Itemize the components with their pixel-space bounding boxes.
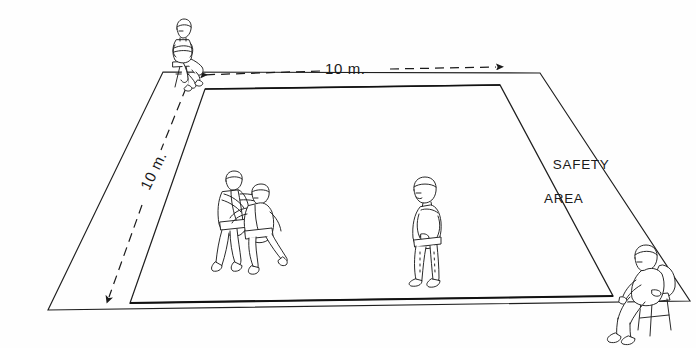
- judge-seated-bottom-right: [607, 245, 675, 345]
- judge-seated-top-left: [173, 19, 203, 91]
- judoka-pair: [212, 171, 288, 274]
- referee-standing: [409, 177, 441, 287]
- figures-layer: [0, 0, 696, 348]
- judo-contest-area-diagram: 10 m. 10 m. SAFETY AREA: [0, 0, 696, 348]
